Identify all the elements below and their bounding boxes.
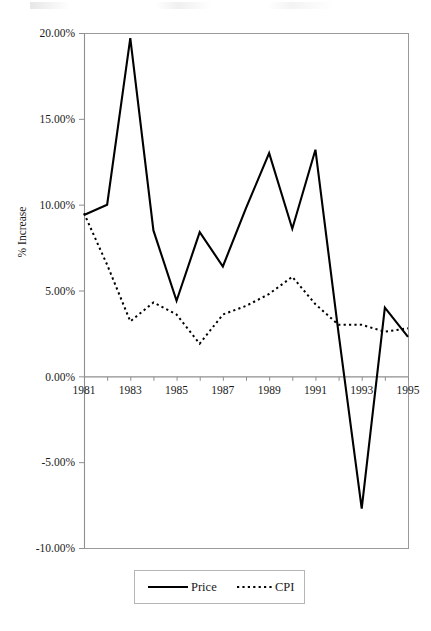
x-axis: [84, 377, 409, 381]
chart-figure: 20.00%15.00%10.00%5.00%0.00%-5.00%-10.00…: [0, 0, 431, 631]
x-tick-label: 1989: [258, 384, 281, 396]
x-tick-label: 1987: [211, 384, 234, 396]
x-tick-label: 1995: [397, 384, 420, 396]
data-series-group: [84, 38, 408, 508]
series-line-cpi: [84, 213, 408, 343]
x-tick-label: 1983: [119, 384, 142, 396]
y-axis: [79, 33, 85, 549]
x-tick-label: 1993: [350, 384, 373, 396]
x-tick-labels: 19811983198519871989199119931995: [73, 384, 420, 396]
x-tick-label: 1991: [304, 384, 327, 396]
y-tick-label: -5.00%: [41, 456, 75, 468]
y-tick-label: -10.00%: [36, 542, 76, 554]
legend-label-price: Price: [191, 580, 217, 594]
plot-frame: [85, 34, 409, 549]
y-tick-label: 5.00%: [45, 285, 75, 297]
y-tick-label: 20.00%: [40, 27, 76, 39]
chart-legend: Price CPI: [135, 571, 305, 604]
y-tick-label: 10.00%: [40, 199, 76, 211]
y-tick-label: 15.00%: [40, 113, 76, 125]
y-tick-labels: 20.00%15.00%10.00%5.00%0.00%-5.00%-10.00…: [36, 27, 76, 554]
series-line-price: [84, 38, 408, 508]
y-axis-title: % Increase: [16, 207, 28, 258]
x-tick-label: 1985: [165, 384, 188, 396]
y-tick-label: 0.00%: [45, 371, 75, 383]
price-cpi-chart-svg: 20.00%15.00%10.00%5.00%0.00%-5.00%-10.00…: [0, 0, 431, 631]
x-tick-label: 1981: [73, 384, 96, 396]
legend-label-cpi: CPI: [275, 580, 294, 594]
